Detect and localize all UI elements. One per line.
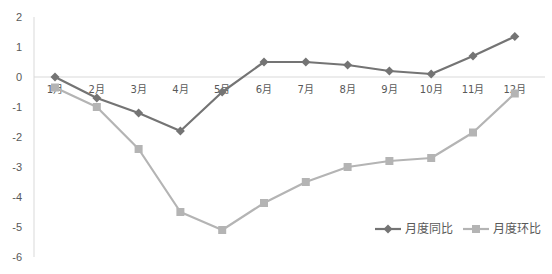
legend-label: 月度环比 (493, 221, 541, 236)
square-marker (93, 103, 101, 111)
x-tick-label: 3月 (130, 84, 146, 95)
x-tick-label: 6月 (256, 84, 272, 95)
square-marker (385, 157, 393, 165)
x-tick-label: 9月 (381, 84, 397, 95)
y-tick-label: -5 (12, 221, 22, 233)
y-tick-label: -3 (12, 161, 22, 173)
diamond-marker (469, 52, 478, 61)
legend-label: 月度同比 (405, 221, 453, 236)
y-axis: 210-1-2-3-4-5-6 (12, 11, 34, 263)
diamond-marker (301, 58, 310, 67)
y-tick-label: -4 (12, 191, 22, 203)
legend-diamond-icon (384, 225, 393, 234)
diamond-marker (385, 67, 394, 76)
square-marker (260, 199, 268, 207)
square-marker (511, 90, 519, 98)
x-tick-label: 10月 (420, 84, 443, 95)
x-tick-label: 11月 (462, 84, 485, 95)
y-tick-label: 1 (16, 41, 22, 53)
square-marker (51, 84, 59, 92)
diamond-marker (134, 109, 143, 118)
y-tick-label: -1 (12, 101, 22, 113)
diamond-marker (510, 32, 519, 41)
legend: 月度同比月度环比 (375, 221, 541, 236)
square-marker (469, 129, 477, 137)
x-tick-label: 7月 (298, 84, 314, 95)
square-marker (344, 163, 352, 171)
y-tick-label: 2 (16, 11, 22, 23)
line-chart: 210-1-2-3-4-5-6 1月2月3月4月5月6月7月8月9月10月11月… (0, 0, 552, 274)
x-tick-label: 2月 (89, 84, 105, 95)
square-marker (302, 178, 310, 186)
series-line (55, 37, 515, 132)
square-marker (218, 226, 226, 234)
square-marker (135, 145, 143, 153)
square-marker (427, 154, 435, 162)
diamond-marker (51, 73, 60, 82)
x-tick-label: 8月 (339, 84, 355, 95)
series-group (51, 32, 520, 234)
legend-square-icon (472, 225, 480, 233)
y-tick-label: -2 (12, 131, 22, 143)
x-axis: 1月2月3月4月5月6月7月8月9月10月11月12月 (34, 77, 545, 95)
x-tick-label: 4月 (172, 84, 188, 95)
diamond-marker (343, 61, 352, 70)
square-marker (176, 208, 184, 216)
y-tick-label: -6 (12, 251, 22, 263)
y-tick-label: 0 (16, 71, 22, 83)
